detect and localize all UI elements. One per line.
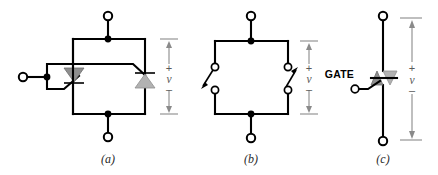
panel-b-bottom-node-dot (248, 111, 255, 118)
panel-c-annot-down-arrowhead-icon (409, 131, 415, 139)
figure-container: + v – (a) (0, 0, 438, 175)
panel-c-annot-up-arrowhead-icon (409, 20, 415, 28)
panel-a-top-terminal[interactable] (104, 12, 112, 20)
panel-b-annot-up-arrowhead-icon (306, 43, 312, 50)
switch-left-lower-contact (211, 86, 218, 93)
circuit-diagram: + v – (a) (0, 0, 438, 175)
panel-a-gate-path-right (47, 64, 145, 77)
switch-right-lower-contact (284, 86, 291, 93)
panel-a-voltage-annotation: + v – (160, 39, 178, 114)
panel-b-bottom-terminal[interactable] (247, 134, 255, 142)
panel-a-top-node-dot (105, 36, 112, 43)
panel-b-voltage-annotation: + v – (300, 41, 318, 114)
panel-c-gate-label: GATE (325, 68, 354, 80)
panel-c-plus-sign: + (409, 62, 415, 74)
panel-c: GATE + v – (c) (325, 12, 422, 166)
panel-a-minus-sign: – (166, 83, 173, 95)
panel-a: + v – (a) (19, 12, 178, 166)
panel-a-bottom-terminal[interactable] (104, 133, 112, 141)
panel-a-gate-node-dot (44, 74, 51, 81)
panel-b-annot-down-arrowhead-icon (306, 106, 312, 113)
panel-a-annot-up-arrowhead-icon (166, 41, 172, 48)
panel-c-voltage-annotation: + v – (400, 18, 422, 140)
panel-b-top-terminal[interactable] (247, 12, 255, 20)
panel-a-gate-terminal[interactable] (19, 73, 27, 81)
switch-right[interactable] (284, 63, 298, 93)
switch-left-upper-contact (211, 63, 218, 70)
panel-c-minus-sign: – (409, 84, 416, 96)
panel-c-top-terminal[interactable] (379, 12, 387, 20)
panel-c-gate-terminal[interactable] (351, 85, 359, 93)
panel-b-top-node-dot (248, 38, 255, 45)
panel-a-bottom-node-dot (105, 111, 112, 118)
panel-a-annot-down-arrowhead-icon (166, 106, 172, 113)
panel-b: + v – (b) (201, 12, 318, 166)
panel-b-caption: (b) (244, 152, 258, 166)
panel-b-minus-sign: – (306, 83, 313, 95)
switch-left-arrowhead-icon (201, 82, 208, 89)
panel-c-bottom-terminal[interactable] (379, 137, 387, 145)
panel-a-caption: (a) (101, 152, 115, 166)
panel-c-caption: (c) (376, 152, 389, 166)
switch-right-upper-contact (284, 63, 291, 70)
switch-left[interactable] (201, 63, 219, 93)
scr-right-triangle-icon (135, 74, 155, 88)
